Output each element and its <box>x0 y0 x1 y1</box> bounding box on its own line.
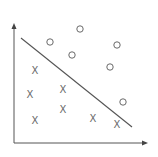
x-axis-arrow-icon <box>142 141 148 146</box>
circle-point <box>120 99 126 105</box>
cross-class-points: XXXXXXX <box>27 65 121 130</box>
circle-point <box>77 26 83 32</box>
circle-point <box>69 52 75 58</box>
circle-point <box>107 64 113 70</box>
cross-point: X <box>32 65 39 76</box>
circle-point <box>114 42 120 48</box>
cross-point: X <box>60 104 67 115</box>
cross-point: X <box>32 115 39 126</box>
cross-point: X <box>60 84 67 95</box>
cross-point: X <box>114 119 121 130</box>
cross-point: X <box>90 113 97 124</box>
cross-point: X <box>27 89 34 100</box>
classifier-diagram: XXXXXXX <box>0 0 158 157</box>
circle-point <box>47 39 53 45</box>
axes <box>12 23 149 146</box>
y-axis-arrow-icon <box>12 23 17 29</box>
